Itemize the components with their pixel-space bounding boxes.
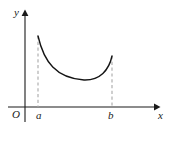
x-axis (8, 104, 161, 111)
x-axis-label: x (158, 110, 163, 121)
y-axis-label: y (14, 7, 19, 18)
convex-curve (38, 36, 112, 80)
coordinate-diagram-svg (0, 0, 170, 147)
y-axis (22, 10, 29, 123)
origin-label: O (12, 109, 20, 120)
x-tick-label-b: b (108, 110, 114, 121)
x-tick-label-a: a (36, 110, 42, 121)
figure-container: y x O a b (0, 0, 170, 147)
y-axis-arrowhead (22, 10, 29, 17)
